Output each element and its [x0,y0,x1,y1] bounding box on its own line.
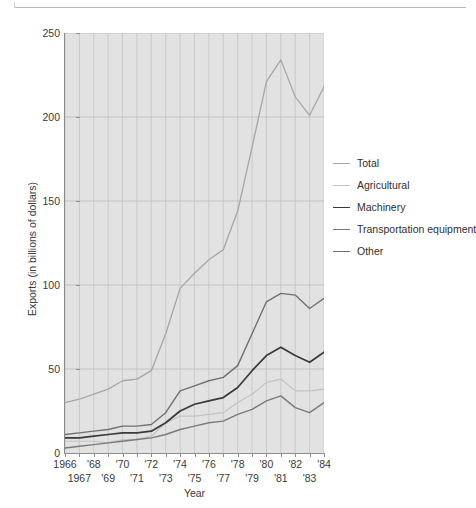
y-tick-label: 200 [20,112,60,122]
legend-line-icon [333,229,350,230]
y-tick-mark [76,33,80,34]
plot-area [65,33,324,453]
x-tick-label: '70 [116,459,130,470]
y-axis-line [64,33,65,454]
x-axis-title: Year [65,487,324,499]
legend-item-label: Other [357,246,383,257]
x-tick-label: '81 [274,473,288,484]
y-axis-title: Exports (in billions of dollars) [26,149,38,349]
x-tick-label: '69 [101,473,115,484]
y-tick-label: 50 [20,364,60,374]
legend-item-label: Transportation equipment [357,224,476,235]
x-tick-mark [180,453,181,457]
x-tick-mark [108,453,109,457]
legend-item[interactable]: Machinery [333,196,470,218]
x-tick-mark [295,453,296,457]
y-tick-label: 250 [20,28,60,38]
legend-item-label: Agricultural [357,180,410,191]
legend-line-icon [333,185,350,186]
x-tick-label: '68 [87,459,101,470]
y-tick-mark [76,285,80,286]
x-tick-mark [281,453,282,457]
x-tick-label: '72 [144,459,158,470]
x-tick-label: '73 [159,473,173,484]
x-tick-label: '77 [216,473,230,484]
legend-line-icon [333,251,350,252]
x-tick-label: '83 [303,473,317,484]
legend-line-icon [333,163,350,164]
x-tick-label: '71 [130,473,144,484]
legend-line-icon [333,207,350,208]
y-tick-mark [76,117,80,118]
x-tick-mark [94,453,95,457]
y-axis-ticks: 050100150200250 [16,0,60,508]
plot-svg [65,33,324,453]
y-tick-mark [76,201,80,202]
x-tick-mark [223,453,224,457]
x-tick-label: '82 [288,459,302,470]
legend-item-label: Total [357,158,379,169]
x-tick-mark [123,453,124,457]
x-tick-mark [324,453,325,457]
x-tick-mark [310,453,311,457]
y-tick-mark [76,369,80,370]
legend-item[interactable]: Agricultural [333,174,470,196]
x-axis-ticks-secondary: 1967'69'71'73'75'77'79'81'83 [0,0,470,20]
x-tick-label: '74 [173,459,187,470]
x-tick-mark [151,453,152,457]
x-tick-mark [65,453,66,457]
y-tick-label: 0 [20,448,60,458]
chart-legend: TotalAgriculturalMachineryTransportation… [333,152,470,262]
x-tick-mark [209,453,210,457]
x-tick-mark [137,453,138,457]
x-tick-mark [166,453,167,457]
x-tick-label: '79 [245,473,259,484]
x-tick-mark [238,453,239,457]
legend-item[interactable]: Total [333,152,470,174]
x-tick-label: '76 [202,459,216,470]
x-tick-mark [252,453,253,457]
legend-item-label: Machinery [357,202,405,213]
x-tick-label: '78 [231,459,245,470]
x-tick-label: '80 [260,459,274,470]
legend-item[interactable]: Other [333,240,470,262]
legend-item[interactable]: Transportation equipment [333,218,470,240]
x-tick-mark [266,453,267,457]
x-tick-label: '84 [317,459,331,470]
x-tick-mark [79,453,80,457]
x-tick-label: '75 [188,473,202,484]
x-tick-label: 1967 [68,473,91,484]
x-tick-mark [195,453,196,457]
x-tick-label: 1966 [53,459,76,470]
